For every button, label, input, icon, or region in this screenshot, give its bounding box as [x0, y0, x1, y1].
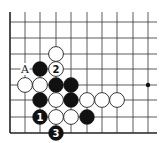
white-stone — [80, 93, 95, 108]
black-stone — [33, 62, 48, 77]
black-stone — [80, 110, 95, 125]
point-label: A — [20, 63, 30, 76]
black-stone: 3 — [49, 126, 64, 141]
white-stone — [110, 93, 125, 108]
white-stone — [64, 110, 79, 125]
star-points — [146, 83, 150, 87]
white-stone — [49, 110, 64, 125]
white-stone: 2 — [49, 62, 64, 77]
move-number: 2 — [53, 64, 60, 75]
star-point — [146, 83, 150, 87]
white-stone — [18, 78, 33, 93]
move-number: 1 — [37, 112, 44, 123]
black-stone — [64, 93, 79, 108]
white-stone — [49, 93, 64, 108]
move-number: 3 — [53, 128, 60, 139]
white-stone — [49, 47, 64, 62]
black-stone — [64, 78, 79, 93]
black-stone: 1 — [33, 110, 48, 125]
white-stone — [33, 78, 48, 93]
point-labels: A — [20, 63, 30, 76]
black-stone — [49, 78, 64, 93]
black-stone — [33, 93, 48, 108]
go-board: A 213 — [0, 0, 162, 143]
white-stone — [95, 93, 110, 108]
